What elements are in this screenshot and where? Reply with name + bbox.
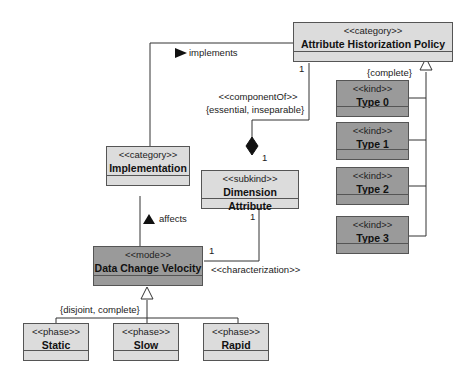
implements-label: implements [189, 47, 238, 59]
attribute-compartment [94, 275, 202, 285]
essential-inseparable-constraint: {essential, inseparable} [200, 104, 310, 116]
multiplicity-dcv: 1 [209, 245, 214, 257]
stereotype: <<kind>> [337, 168, 408, 182]
class-data-change-velocity[interactable]: <<mode>> Data Change Velocity [93, 246, 203, 286]
affects-direction-icon [143, 214, 155, 224]
attribute-compartment [337, 149, 408, 159]
class-name: Data Change Velocity [94, 261, 202, 275]
attribute-compartment [294, 51, 452, 61]
characterization-stereotype: <<characterization>> [211, 264, 300, 276]
class-dimension-attribute[interactable]: <<subkind>> Dimension Attribute [201, 170, 299, 209]
implements-direction-icon [175, 48, 187, 58]
attribute-compartment [337, 106, 408, 116]
class-attribute-historization-policy[interactable]: <<category>> Attribute Historization Pol… [293, 22, 453, 62]
multiplicity-dimension-bottom: 1 [250, 211, 255, 223]
attribute-compartment [107, 175, 189, 185]
class-rapid[interactable]: <<phase>> Rapid [203, 323, 269, 361]
generalization-arrow-dcv [141, 287, 153, 299]
stereotype: <<phase>> [114, 324, 178, 338]
complete-constraint: {complete} [367, 67, 412, 79]
class-static[interactable]: <<phase>> Static [23, 323, 89, 361]
multiplicity-dimension-top: 1 [262, 152, 267, 164]
disjoint-complete-constraint: {disjoint, complete} [60, 304, 140, 316]
stereotype: <<phase>> [204, 324, 268, 338]
component-of-stereotype: <<componentOf>> [208, 91, 308, 103]
class-name: Attribute Historization Policy [294, 37, 452, 51]
class-type-2[interactable]: <<kind>> Type 2 [336, 167, 409, 205]
stereotype: <<category>> [107, 147, 189, 161]
class-type-3[interactable]: <<kind>> Type 3 [336, 216, 409, 254]
attribute-compartment [202, 198, 298, 208]
stereotype: <<mode>> [94, 247, 202, 261]
stereotype: <<kind>> [337, 123, 408, 137]
stereotype: <<kind>> [337, 217, 408, 231]
attribute-compartment [337, 194, 408, 204]
affects-label: affects [159, 213, 187, 225]
multiplicity-ahp: 1 [299, 63, 304, 75]
attribute-compartment [204, 350, 268, 360]
stereotype: <<subkind>> [202, 171, 298, 185]
attribute-compartment [114, 350, 178, 360]
class-name: Implementation [107, 161, 189, 175]
attribute-compartment [24, 350, 88, 360]
class-type-0[interactable]: <<kind>> Type 0 [336, 80, 409, 117]
class-implementation[interactable]: <<category>> Implementation [106, 146, 190, 186]
class-type-1[interactable]: <<kind>> Type 1 [336, 122, 409, 160]
class-slow[interactable]: <<phase>> Slow [113, 323, 179, 361]
composition-diamond [246, 137, 258, 155]
stereotype: <<kind>> [337, 81, 408, 95]
stereotype: <<category>> [294, 23, 452, 37]
stereotype: <<phase>> [24, 324, 88, 338]
attribute-compartment [337, 243, 408, 253]
